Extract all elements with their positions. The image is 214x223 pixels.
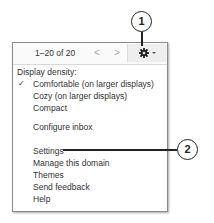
gear-icon xyxy=(139,48,149,58)
menu-item-themes[interactable]: Themes xyxy=(33,170,64,180)
callout-1-badge: 1 xyxy=(131,11,152,32)
display-density-heading: Display density: xyxy=(17,67,77,77)
pagination-count: 1–20 of 20 xyxy=(35,48,75,58)
menu-item-configure-inbox[interactable]: Configure inbox xyxy=(33,122,93,132)
chevron-down-icon xyxy=(152,52,156,54)
settings-dropdown-panel: 1–20 of 20 < > Display density: ✓ Comfor… xyxy=(12,42,168,212)
menu-item-compact[interactable]: Compact xyxy=(33,103,67,113)
callout-2-leader-line xyxy=(63,149,177,151)
menu-item-cozy[interactable]: Cozy (on larger displays) xyxy=(33,91,127,101)
toolbar: 1–20 of 20 < > xyxy=(13,43,167,65)
menu-item-manage-domain[interactable]: Manage this domain xyxy=(33,158,110,168)
previous-page-button[interactable]: < xyxy=(90,46,104,60)
menu-item-comfortable[interactable]: Comfortable (on larger displays) xyxy=(33,79,154,89)
menu-item-settings[interactable]: Settings xyxy=(33,146,64,156)
settings-button[interactable] xyxy=(127,44,166,62)
menu-item-send-feedback[interactable]: Send feedback xyxy=(33,182,90,192)
menu-item-help[interactable]: Help xyxy=(33,194,50,204)
checkmark-icon: ✓ xyxy=(18,79,25,88)
callout-1-leader-line xyxy=(141,32,143,46)
next-page-button[interactable]: > xyxy=(110,46,124,60)
callout-2-badge: 2 xyxy=(177,139,198,160)
